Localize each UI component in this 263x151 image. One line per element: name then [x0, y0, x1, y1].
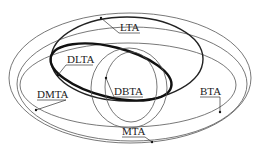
bta-label: BTA: [200, 85, 221, 97]
dmta-ellipse: [17, 27, 247, 141]
bta-label-group: BTA: [200, 85, 221, 113]
dlta-leader-line: [58, 65, 93, 75]
dbta-label: DBTA: [114, 85, 143, 97]
lta-label: LTA: [120, 21, 140, 33]
dlta-label-group: DLTA: [57, 53, 95, 76]
ta-venn-diagram: LTA DLTA DBTA DMTA BTA MTA: [0, 0, 263, 151]
dmta-leader-line: [36, 100, 66, 110]
mta-label: MTA: [122, 125, 146, 137]
dbta-label-group: DBTA: [105, 77, 143, 97]
dmta-label-group: DMTA: [35, 88, 69, 111]
dlta-label: DLTA: [67, 53, 94, 65]
bta-leader-line: [200, 97, 220, 112]
dmta-label: DMTA: [37, 88, 69, 100]
